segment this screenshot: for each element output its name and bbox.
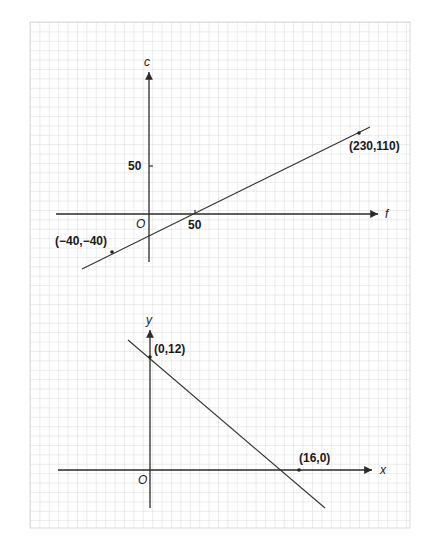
point-3 [148, 355, 152, 359]
point-3-label: (0,12) [154, 342, 185, 356]
point-4-label: (16,0) [299, 451, 330, 465]
x-tick-label: 50 [188, 218, 202, 232]
graph-paper: f c O 50 50 (−40,−40) (230,110) x y O (0… [0, 0, 429, 550]
point-2 [357, 131, 361, 135]
x-axis-label: x [379, 463, 387, 477]
point-1 [110, 250, 114, 254]
origin-label-2: O [138, 473, 147, 487]
point-2-label: (230,110) [349, 139, 400, 153]
point-4 [297, 468, 301, 472]
y-axis-label: y [145, 313, 153, 327]
point-1-label: (−40,−40) [55, 234, 107, 248]
origin-label: O [136, 217, 145, 231]
grid-background [30, 22, 410, 528]
y-tick-label: 50 [128, 159, 142, 173]
c-axis-label: c [144, 55, 150, 69]
